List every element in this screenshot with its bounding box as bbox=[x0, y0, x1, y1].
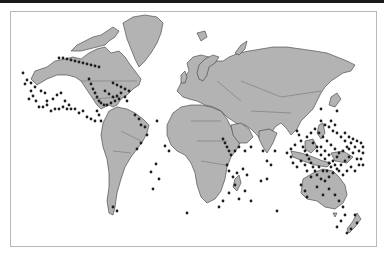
point-marker bbox=[332, 160, 335, 163]
greenland bbox=[123, 15, 163, 67]
point-marker bbox=[100, 120, 103, 123]
point-marker bbox=[28, 98, 31, 101]
point-marker bbox=[300, 160, 303, 163]
point-marker bbox=[222, 138, 225, 141]
point-marker bbox=[94, 92, 97, 95]
point-marker bbox=[360, 142, 363, 145]
point-marker bbox=[308, 158, 311, 161]
point-marker bbox=[342, 150, 345, 153]
point-marker bbox=[344, 160, 347, 163]
point-marker bbox=[310, 162, 313, 165]
point-marker bbox=[46, 100, 49, 103]
point-marker bbox=[78, 61, 81, 64]
point-marker bbox=[340, 164, 343, 167]
point-marker bbox=[312, 166, 315, 169]
point-marker bbox=[54, 108, 57, 111]
point-marker bbox=[324, 158, 327, 161]
point-marker bbox=[302, 146, 305, 149]
point-marker bbox=[320, 154, 323, 157]
point-marker bbox=[126, 100, 129, 103]
point-marker bbox=[356, 158, 359, 161]
point-marker bbox=[92, 88, 95, 91]
point-marker bbox=[340, 136, 343, 139]
point-marker bbox=[334, 194, 337, 197]
point-marker bbox=[30, 82, 33, 85]
point-marker bbox=[320, 178, 323, 181]
point-marker bbox=[82, 110, 85, 113]
point-marker bbox=[116, 210, 119, 213]
point-marker bbox=[22, 72, 25, 75]
point-marker bbox=[238, 146, 241, 149]
point-marker bbox=[314, 170, 317, 173]
point-marker bbox=[90, 64, 93, 67]
india bbox=[259, 129, 277, 153]
point-marker bbox=[62, 106, 65, 109]
point-marker bbox=[346, 146, 349, 149]
point-marker bbox=[244, 190, 247, 193]
point-marker bbox=[338, 200, 341, 203]
point-marker bbox=[290, 156, 293, 159]
point-marker bbox=[336, 226, 339, 229]
point-marker bbox=[324, 124, 327, 127]
map-panel[interactable] bbox=[10, 11, 377, 247]
arctic-archipelago bbox=[71, 27, 119, 51]
point-marker bbox=[262, 150, 265, 153]
new-zealand bbox=[347, 213, 361, 233]
point-marker bbox=[234, 184, 237, 187]
point-marker bbox=[120, 86, 123, 89]
point-marker bbox=[112, 82, 115, 85]
point-marker bbox=[128, 90, 131, 93]
point-marker bbox=[74, 60, 77, 63]
point-marker bbox=[226, 164, 229, 167]
point-marker bbox=[318, 166, 321, 169]
point-marker bbox=[324, 150, 327, 153]
japan bbox=[329, 93, 341, 107]
point-marker bbox=[338, 152, 341, 155]
point-marker bbox=[304, 190, 307, 193]
point-marker bbox=[356, 140, 359, 143]
point-marker bbox=[318, 132, 321, 135]
point-marker bbox=[334, 124, 337, 127]
point-marker bbox=[266, 178, 269, 181]
point-marker bbox=[118, 98, 121, 101]
point-marker bbox=[320, 108, 323, 111]
point-marker bbox=[94, 120, 97, 123]
point-marker bbox=[250, 200, 253, 203]
point-marker bbox=[328, 126, 331, 129]
point-marker bbox=[244, 150, 247, 153]
point-marker bbox=[344, 214, 347, 217]
point-marker bbox=[346, 170, 349, 173]
point-marker bbox=[312, 142, 315, 145]
point-marker bbox=[330, 144, 333, 147]
point-marker bbox=[52, 98, 55, 101]
point-marker bbox=[116, 84, 119, 87]
point-marker bbox=[356, 222, 359, 225]
point-marker bbox=[104, 90, 107, 93]
point-marker bbox=[150, 171, 153, 174]
tasmania bbox=[333, 213, 337, 217]
point-marker bbox=[106, 104, 109, 107]
point-marker bbox=[90, 83, 93, 86]
point-marker bbox=[334, 148, 337, 151]
point-marker bbox=[316, 146, 319, 149]
point-marker bbox=[328, 188, 331, 191]
point-marker bbox=[320, 120, 323, 123]
point-marker bbox=[296, 166, 299, 169]
point-marker bbox=[348, 148, 351, 151]
point-marker bbox=[32, 95, 35, 98]
point-marker bbox=[306, 170, 309, 173]
point-marker bbox=[74, 108, 77, 111]
point-marker bbox=[110, 102, 113, 105]
point-marker bbox=[96, 110, 99, 113]
point-marker bbox=[236, 172, 239, 175]
point-marker bbox=[330, 120, 333, 123]
point-marker bbox=[332, 130, 335, 133]
point-marker bbox=[38, 106, 41, 109]
point-marker bbox=[296, 130, 299, 133]
point-marker bbox=[58, 57, 61, 60]
point-marker bbox=[270, 164, 273, 167]
point-marker bbox=[230, 154, 233, 157]
point-marker bbox=[350, 228, 353, 231]
point-marker bbox=[352, 152, 355, 155]
point-marker bbox=[88, 78, 91, 81]
